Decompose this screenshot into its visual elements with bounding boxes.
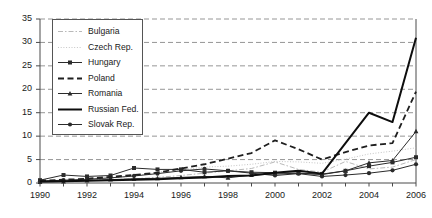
x-tick-label: 1994 <box>114 190 154 200</box>
y-tick-label: 0 <box>6 177 32 187</box>
legend-item-russian-fed[interactable]: Russian Fed. <box>53 102 142 118</box>
legend-label: Slovak Rep. <box>83 119 134 130</box>
data-point-marker <box>414 155 418 159</box>
x-tick-label: 1996 <box>161 190 201 200</box>
x-tick-label: 2002 <box>302 190 342 200</box>
data-point-marker <box>414 129 419 134</box>
legend-line-sample <box>57 119 83 130</box>
y-tick-label: 20 <box>6 83 32 93</box>
x-tick-label: 1990 <box>20 190 60 200</box>
legend-label: Russian Fed. <box>83 104 139 115</box>
data-point-marker <box>62 173 66 177</box>
legend-item-bulgaria[interactable]: Bulgaria <box>53 24 142 40</box>
legend-label: Czech Rep. <box>83 42 133 53</box>
y-tick-label: 30 <box>6 36 32 46</box>
data-point-marker <box>156 167 160 171</box>
data-point-marker <box>390 168 394 172</box>
data-point-marker <box>203 170 207 174</box>
legend-line-sample <box>57 73 83 84</box>
legend-line-sample <box>57 42 83 53</box>
y-tick-label: 15 <box>6 107 32 117</box>
series-line <box>40 131 416 182</box>
legend-item-hungary[interactable]: Hungary <box>53 55 142 71</box>
legend-item-slovak-rep[interactable]: Slovak Rep. <box>53 117 142 133</box>
x-tick-label: 2006 <box>396 190 432 200</box>
y-tick-label: 35 <box>6 13 32 23</box>
legend-line-sample <box>57 57 83 68</box>
data-point-marker <box>68 61 72 65</box>
y-tick-label: 25 <box>6 60 32 70</box>
chart-legend: BulgariaCzech Rep.HungaryPolandRomaniaRu… <box>52 19 143 135</box>
x-tick-label: 2000 <box>255 190 295 200</box>
x-tick-label: 2004 <box>349 190 389 200</box>
legend-line-sample <box>57 104 83 115</box>
legend-line-sample <box>57 88 83 99</box>
legend-label: Bulgaria <box>83 26 120 37</box>
y-tick-label: 5 <box>6 154 32 164</box>
line-chart: BulgariaCzech Rep.HungaryPolandRomaniaRu… <box>0 0 432 218</box>
data-point-marker <box>343 173 347 177</box>
x-tick-label: 1992 <box>67 190 107 200</box>
legend-label: Hungary <box>83 57 120 68</box>
data-point-marker <box>132 166 136 170</box>
data-point-marker <box>414 162 418 166</box>
y-tick-label: 10 <box>6 130 32 140</box>
legend-item-poland[interactable]: Poland <box>53 71 142 87</box>
data-point-marker <box>68 123 72 127</box>
data-point-marker <box>226 169 230 173</box>
data-point-marker <box>367 171 371 175</box>
legend-label: Poland <box>83 73 115 84</box>
legend-item-czech-rep[interactable]: Czech Rep. <box>53 40 142 56</box>
legend-label: Romania <box>83 88 122 99</box>
legend-line-sample <box>57 26 83 37</box>
x-tick-label: 1998 <box>208 190 248 200</box>
legend-item-romania[interactable]: Romania <box>53 86 142 102</box>
